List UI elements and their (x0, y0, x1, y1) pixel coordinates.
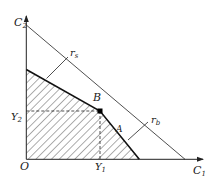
point-a-label: A (115, 124, 123, 134)
intertemporal-budget-diagram: C2 C1 O Y2 Y1 B A rs rb (0, 0, 218, 186)
rs-slope-line (47, 57, 69, 79)
point-b-label: B (92, 91, 101, 104)
rs-label: rs (70, 47, 79, 60)
point-b-marker (98, 109, 103, 114)
x-axis-label: C1 (193, 164, 206, 178)
feasible-region (26, 70, 139, 160)
rb-label: rb (151, 114, 161, 127)
y2-label: Y2 (11, 111, 23, 124)
y-axis-label: C2 (14, 16, 27, 30)
origin-label: O (20, 160, 29, 173)
y1-label: Y1 (95, 161, 106, 174)
rb-slope-line (128, 122, 148, 140)
